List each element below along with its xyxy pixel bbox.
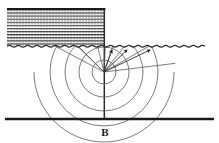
ray-path-304 [104, 17, 148, 72]
figure-caption-label: B [101, 126, 109, 138]
figure-container: B [0, 0, 219, 143]
wavy-free-surface [7, 45, 205, 47]
ray-path-336 [104, 63, 175, 72]
ray-path-320 [104, 38, 164, 72]
wave-propagation-diagram: B [0, 0, 219, 143]
hatched-layer-fill [7, 10, 105, 47]
hatched-layer [7, 9, 106, 46]
